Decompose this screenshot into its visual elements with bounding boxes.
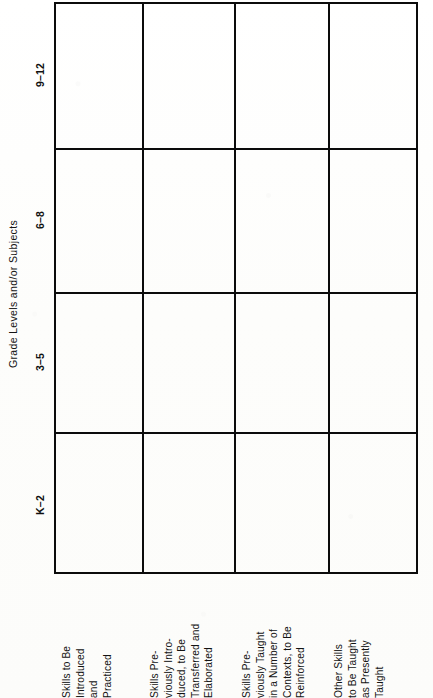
matrix-cell[interactable] (144, 150, 234, 292)
matrix-cell[interactable] (144, 434, 234, 572)
grade-header-k-2: K–2 (26, 496, 54, 514)
matrix-cell[interactable] (144, 4, 234, 148)
row-label-text: Skills to Be Introduced and Practiced (60, 574, 114, 698)
row-label-text: Skills Pre- viously Intro- duced, to Be … (148, 574, 216, 698)
matrix-cell[interactable] (330, 150, 416, 292)
row-label-text: Other Skills to Be Taught as Presently T… (332, 574, 386, 698)
grade-header-3-5: 3–5 (26, 353, 54, 371)
matrix-cell[interactable] (56, 4, 142, 148)
matrix-cell[interactable] (330, 294, 416, 432)
grade-header-9-12: 9–12 (26, 66, 54, 84)
matrix-cell[interactable] (236, 434, 328, 572)
matrix-cell[interactable] (330, 434, 416, 572)
matrix-cell[interactable] (56, 150, 142, 292)
row-label-skills-transferred-elaborated: Skills Pre- viously Intro- duced, to Be … (148, 574, 232, 698)
matrix-cell[interactable] (144, 294, 234, 432)
grid-line-vertical (234, 2, 236, 574)
grid-line-horizontal (54, 148, 418, 150)
matrix-cell[interactable] (56, 434, 142, 572)
grade-header-k-2-label: K–2 (34, 495, 46, 515)
grid-line-horizontal (54, 432, 418, 434)
matrix-cell[interactable] (236, 4, 328, 148)
row-label-text: Skills Pre- viously Taught in a Number o… (240, 574, 308, 698)
axis-title: Grade Levels and/or Subjects (1, 0, 25, 698)
axis-title-label: Grade Levels and/or Subjects (7, 220, 19, 368)
grid-line-vertical (54, 2, 56, 574)
matrix-grid (54, 2, 418, 574)
grid-line-vertical (328, 2, 330, 574)
row-label-skills-introduced-practiced: Skills to Be Introduced and Practiced (60, 574, 140, 698)
grade-header-6-8-label: 6–8 (34, 211, 46, 229)
matrix-cell[interactable] (56, 294, 142, 432)
matrix-cell[interactable] (330, 4, 416, 148)
grid-line-vertical (142, 2, 144, 574)
row-label-other-skills-as-presently-taught: Other Skills to Be Taught as Presently T… (332, 574, 412, 698)
grid-line-horizontal (54, 2, 418, 4)
grade-header-6-8: 6–8 (26, 211, 54, 229)
row-label-skills-reinforced: Skills Pre- viously Taught in a Number o… (240, 574, 324, 698)
matrix-cell[interactable] (236, 294, 328, 432)
grid-line-horizontal (54, 292, 418, 294)
grade-header-9-12-label: 9–12 (34, 63, 46, 87)
matrix-cell[interactable] (236, 150, 328, 292)
grade-header-3-5-label: 3–5 (34, 353, 46, 371)
grid-line-vertical (416, 2, 418, 574)
